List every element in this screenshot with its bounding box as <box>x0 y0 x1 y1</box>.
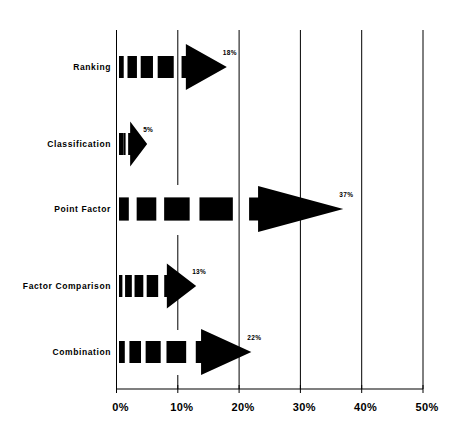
value-label: 22% <box>247 334 261 341</box>
x-tick-label: 0% <box>112 401 129 413</box>
category-label: Factor Comparison <box>23 281 111 291</box>
x-tick-label: 10% <box>170 401 193 413</box>
arrow-stripe <box>124 133 126 155</box>
arrow-stripe <box>119 275 122 297</box>
arrow-stripe <box>119 197 129 220</box>
arrow-stripe <box>199 197 232 220</box>
arrow-stripe <box>146 341 161 363</box>
arrow-head <box>249 186 343 232</box>
arrow-bar-chart: 0%10%20%30%40%50% RankingClassificationP… <box>0 0 461 437</box>
arrow-stripe <box>119 56 124 78</box>
arrow-stripe <box>164 197 190 220</box>
x-tick-label: 20% <box>231 401 254 413</box>
arrow-bar-point-factor <box>119 186 343 232</box>
category-label: Point Factor <box>54 204 111 214</box>
category-label: Classification <box>47 139 111 149</box>
arrow-stripe <box>135 275 144 297</box>
arrow-stripe <box>147 275 158 297</box>
arrow-bar-factor-comparison <box>119 264 196 309</box>
x-tick-label: 40% <box>354 401 377 413</box>
arrow-stripe <box>127 56 136 78</box>
arrow-stripe <box>129 341 141 363</box>
arrow-stripe <box>158 56 174 78</box>
arrow-bar-ranking <box>119 44 227 90</box>
value-label: 37% <box>339 191 353 198</box>
arrow-stripe <box>166 341 186 363</box>
arrow-bar-combination <box>119 329 251 375</box>
value-label: 18% <box>223 49 237 56</box>
value-label: 5% <box>143 126 153 133</box>
arrow-head <box>182 44 227 90</box>
arrow-head <box>196 329 252 375</box>
x-axis: 0%10%20%30%40%50% <box>112 385 438 413</box>
x-tick-label: 50% <box>415 401 438 413</box>
category-label: Combination <box>52 347 111 357</box>
value-label: 13% <box>192 268 206 275</box>
arrow-stripe <box>119 341 125 363</box>
arrow-stripe <box>141 56 153 78</box>
arrow-bars <box>119 44 343 375</box>
arrow-stripe <box>125 275 132 297</box>
category-labels: RankingClassificationPoint FactorFactor … <box>23 62 111 357</box>
arrow-stripe <box>122 133 124 155</box>
category-label: Ranking <box>73 62 111 72</box>
arrow-stripe <box>137 197 157 220</box>
x-tick-label: 30% <box>293 401 316 413</box>
